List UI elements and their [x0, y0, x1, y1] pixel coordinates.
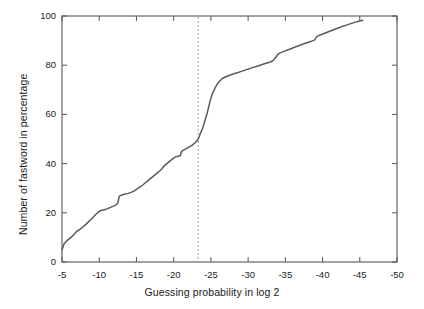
y-tick-label: 60 [30, 110, 56, 120]
y-axis-ticks [62, 16, 397, 262]
y-tick-label: 80 [30, 60, 56, 70]
y-tick-label: 40 [30, 159, 56, 169]
x-tick-label: -5 [58, 270, 66, 280]
x-tick-label: -15 [130, 270, 144, 280]
y-axis-title: Number of fastword in percentage [17, 74, 29, 235]
x-tick-label: -10 [92, 270, 106, 280]
x-tick-label: -20 [167, 270, 181, 280]
x-axis-title: Guessing probability in log 2 [0, 286, 424, 298]
x-tick-label: -30 [241, 270, 255, 280]
y-tick-label: 20 [30, 208, 56, 218]
chart-container: -5-10-15-20-25-30-35-40-45-50 0204060801… [0, 0, 424, 309]
data-series-line [62, 20, 363, 250]
x-tick-label: -25 [204, 270, 218, 280]
chart-plot-svg [0, 0, 424, 309]
y-tick-label: 0 [30, 257, 56, 267]
plot-frame [62, 16, 397, 262]
x-axis-ticks [62, 16, 397, 262]
x-tick-label: -35 [278, 270, 292, 280]
x-tick-label: -40 [316, 270, 330, 280]
x-tick-label: -45 [353, 270, 367, 280]
x-tick-label: -50 [390, 270, 404, 280]
y-tick-label: 100 [30, 11, 56, 21]
